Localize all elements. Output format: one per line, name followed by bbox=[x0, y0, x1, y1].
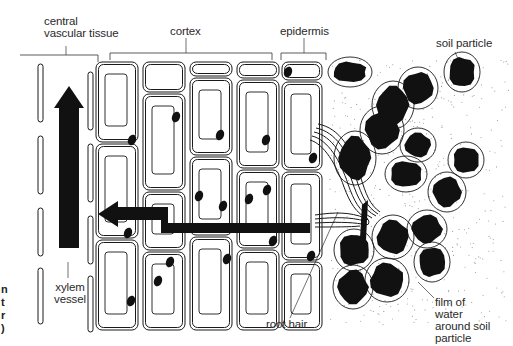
stipple-dot bbox=[360, 109, 361, 110]
stipple-dot bbox=[424, 199, 425, 200]
stipple-dot bbox=[428, 322, 429, 323]
stipple-dot bbox=[411, 255, 412, 256]
xylem-wall-segment bbox=[88, 216, 93, 264]
stipple-dot bbox=[409, 194, 410, 195]
stipple-dot bbox=[372, 294, 373, 295]
stipple-dot bbox=[412, 289, 413, 290]
xylem-flow-arrow bbox=[54, 86, 84, 248]
stipple-dot bbox=[450, 101, 451, 102]
stipple-dot bbox=[377, 313, 378, 314]
stipple-dot bbox=[452, 251, 453, 252]
stipple-dot bbox=[386, 304, 387, 305]
soil-particle bbox=[337, 270, 369, 305]
stipple-dot bbox=[503, 62, 504, 63]
nucleus bbox=[170, 110, 181, 123]
stipple-dot bbox=[405, 205, 406, 206]
stipple-dot bbox=[412, 60, 413, 61]
stipple-dot bbox=[363, 315, 364, 316]
stipple-dot bbox=[503, 221, 504, 222]
stipple-dot bbox=[494, 152, 495, 153]
stipple-dot bbox=[335, 191, 336, 192]
cell-membrane bbox=[240, 83, 277, 166]
stipple-dot bbox=[335, 209, 336, 210]
stipple-dot bbox=[412, 305, 413, 306]
stipple-dot bbox=[415, 319, 416, 320]
stipple-dot bbox=[388, 154, 389, 155]
stipple-dot bbox=[452, 231, 453, 232]
stipple-dot bbox=[377, 75, 378, 76]
nucleus bbox=[282, 65, 293, 78]
stipple-dot bbox=[345, 115, 346, 116]
vacuole bbox=[246, 262, 268, 314]
nucleus bbox=[221, 252, 232, 265]
stipple-dot bbox=[388, 195, 389, 196]
stipple-dot bbox=[371, 256, 372, 257]
stipple-dot bbox=[346, 191, 347, 192]
nucleus bbox=[126, 133, 137, 146]
stipple-dot bbox=[478, 256, 479, 257]
stipple-dot bbox=[437, 97, 438, 98]
stipple-dot bbox=[372, 300, 373, 301]
stipple-dot bbox=[379, 306, 380, 307]
stipple-dot bbox=[410, 288, 411, 289]
stipple-dot bbox=[432, 307, 433, 308]
xylem-wall-segment bbox=[38, 136, 43, 194]
stipple-dot bbox=[413, 126, 414, 127]
stipple-dot bbox=[389, 67, 390, 68]
stipple-dot bbox=[493, 243, 494, 244]
stipple-dot bbox=[451, 85, 452, 86]
stipple-dot bbox=[382, 324, 383, 325]
nucleus bbox=[261, 183, 272, 196]
stipple-dot bbox=[447, 163, 448, 164]
vacuole bbox=[105, 252, 127, 314]
cell-membrane bbox=[146, 65, 183, 90]
stipple-dot bbox=[378, 155, 379, 156]
nucleus bbox=[260, 133, 271, 146]
stipple-dot bbox=[334, 100, 335, 101]
stipple-dot bbox=[392, 64, 393, 65]
stipple-dot bbox=[371, 194, 372, 195]
stipple-dot bbox=[500, 60, 501, 61]
stipple-dot bbox=[475, 258, 476, 259]
label-central-vascular-tissue: central vascular tissue bbox=[44, 15, 119, 39]
stipple-dot bbox=[468, 228, 469, 229]
xylem-wall-segment bbox=[88, 72, 93, 130]
stipple-dot bbox=[483, 67, 484, 68]
stipple-dot bbox=[333, 142, 334, 143]
stipple-dot bbox=[479, 219, 480, 220]
stipple-dot bbox=[374, 187, 375, 188]
stipple-dot bbox=[491, 130, 492, 131]
nucleus bbox=[243, 192, 254, 205]
stipple-dot bbox=[441, 86, 442, 87]
stipple-dot bbox=[430, 189, 431, 190]
stipple-dot bbox=[384, 162, 385, 163]
cell-membrane bbox=[193, 81, 230, 153]
vacuole bbox=[291, 94, 311, 154]
stipple-dot bbox=[329, 179, 330, 180]
soil-particle bbox=[454, 148, 479, 173]
stipple-dot bbox=[497, 120, 498, 121]
cell-membrane bbox=[240, 173, 277, 246]
stipple-dot bbox=[425, 309, 426, 310]
stipple-dot bbox=[425, 171, 426, 172]
stipple-dot bbox=[484, 193, 485, 194]
stipple-dot bbox=[470, 243, 471, 244]
soil-particle bbox=[334, 62, 366, 82]
stipple-dot bbox=[336, 163, 337, 164]
stipple-dot bbox=[505, 320, 506, 321]
stipple-dot bbox=[498, 316, 499, 317]
stipple-dot bbox=[407, 303, 408, 304]
stipple-dot bbox=[501, 110, 502, 111]
stipple-dot bbox=[466, 232, 467, 233]
stipple-dot bbox=[379, 189, 380, 190]
stipple-dot bbox=[436, 60, 437, 61]
stipple-dot bbox=[451, 138, 452, 139]
stipple-dot bbox=[490, 210, 491, 211]
stipple-dot bbox=[490, 238, 491, 239]
stipple-dot bbox=[453, 255, 454, 256]
stipple-dot bbox=[342, 102, 343, 103]
cell-membrane bbox=[193, 65, 230, 74]
stipple-dot bbox=[444, 233, 445, 234]
stipple-dot bbox=[402, 195, 403, 196]
stipple-dot bbox=[373, 203, 374, 204]
